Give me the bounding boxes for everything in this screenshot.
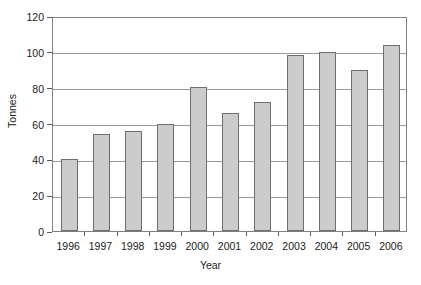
- y-axis-tick: [47, 160, 52, 161]
- x-axis-tick: [84, 232, 85, 236]
- bar-2002: [254, 102, 271, 231]
- x-axis-tick-label: 1999: [149, 240, 181, 252]
- bar-2006: [383, 45, 400, 231]
- bars-layer: [53, 18, 406, 231]
- y-axis-tick-label: 20: [4, 191, 44, 201]
- y-axis-tick-label: 40: [4, 155, 44, 165]
- x-axis-tick: [278, 232, 279, 236]
- x-axis-tick: [149, 232, 150, 236]
- bar-2004: [319, 52, 336, 231]
- y-axis-labels: 020406080100120: [0, 0, 44, 285]
- y-axis-tick: [47, 124, 52, 125]
- x-axis-tick: [375, 232, 376, 236]
- x-axis-tick: [310, 232, 311, 236]
- x-axis-tick-label: 2003: [278, 240, 310, 252]
- x-axis-tick-label: 1998: [117, 240, 149, 252]
- x-axis-tick: [213, 232, 214, 236]
- x-axis-tick-label: 2005: [342, 240, 374, 252]
- x-axis-tick-label: 1997: [84, 240, 116, 252]
- x-axis-tick-label: 2000: [181, 240, 213, 252]
- x-axis-tick-label: 1996: [52, 240, 84, 252]
- y-axis-tick-label: 60: [4, 120, 44, 130]
- x-axis-tick: [117, 232, 118, 236]
- y-axis-tick: [47, 196, 52, 197]
- x-axis-tick-label: 2006: [375, 240, 407, 252]
- x-axis-tick-label: 2002: [246, 240, 278, 252]
- x-axis-tick-label: 2001: [213, 240, 245, 252]
- y-axis-tick-label: 100: [4, 48, 44, 58]
- bar-1997: [93, 134, 110, 231]
- y-axis-tick-label: 120: [4, 12, 44, 22]
- y-axis-tick-label: 80: [4, 84, 44, 94]
- bar-chart: Tonnes 020406080100120 19961997199819992…: [0, 0, 421, 285]
- bar-2005: [351, 70, 368, 231]
- y-axis-tick: [47, 232, 52, 233]
- y-axis-tick: [47, 88, 52, 89]
- y-axis-tick: [47, 52, 52, 53]
- y-axis-tick-label: 0: [4, 227, 44, 237]
- bar-1999: [157, 124, 174, 232]
- plot-area: [52, 17, 407, 232]
- bar-1998: [125, 131, 142, 231]
- bar-2000: [190, 87, 207, 231]
- x-axis-tick-label: 2004: [310, 240, 342, 252]
- x-axis-tick: [181, 232, 182, 236]
- x-axis-tick: [246, 232, 247, 236]
- bar-2001: [222, 113, 239, 231]
- x-axis-title: Year: [0, 259, 421, 271]
- y-axis-tick: [47, 17, 52, 18]
- bar-1996: [61, 159, 78, 231]
- x-axis-tick: [342, 232, 343, 236]
- bar-2003: [287, 55, 304, 231]
